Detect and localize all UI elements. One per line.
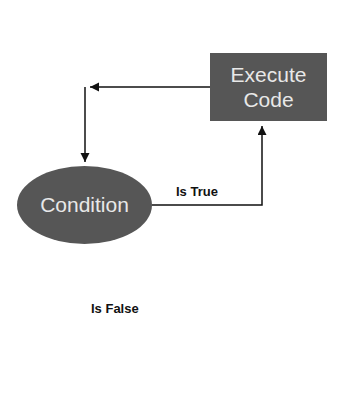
execute-code-node: Execute Code [210,53,327,121]
is-false-label: Is False [91,301,139,316]
execute-label-line2: Code [243,87,293,112]
is-true-label: Is True [176,184,218,199]
condition-label: Condition [40,193,129,217]
execute-label-line1: Execute [231,62,307,87]
condition-node: Condition [17,166,152,244]
